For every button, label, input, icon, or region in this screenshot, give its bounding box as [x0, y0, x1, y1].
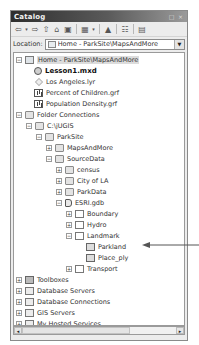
expand-icon[interactable]: + [56, 189, 62, 195]
tree-item-label: Home - ParkSite\MapsAndMore [37, 56, 139, 64]
restore-icon[interactable]: □ [168, 13, 175, 20]
location-combobox[interactable]: Home - ParkSite\MapsAndMore ▼ [45, 39, 185, 50]
expand-icon[interactable]: + [16, 277, 22, 283]
folder-icon [65, 177, 74, 185]
view-grid-icon[interactable]: ▦ [80, 24, 90, 35]
scroll-thumb[interactable] [22, 327, 130, 334]
tree-item-label: Lesson1.mxd [45, 67, 97, 75]
collapse-icon[interactable]: − [46, 156, 52, 162]
feature-dataset-icon [75, 221, 84, 229]
folder-icon [35, 122, 44, 130]
tree-item-label: Parkland [98, 243, 126, 251]
tree-item-feature-dataset[interactable]: − Landmark [66, 230, 120, 241]
tree-item-folder[interactable]: + MapsAndMore [46, 142, 113, 153]
tree-item-grf[interactable]: Percent of Children.grf [34, 87, 119, 98]
toolbar-separator [76, 24, 77, 34]
location-value[interactable]: Home - ParkSite\MapsAndMore [58, 40, 174, 48]
up-one-level-icon[interactable]: ⇧ [41, 24, 51, 35]
catalog-window: Catalog □ × ⇦ ▾ ⇨ ⇧ ⌂ ▣ ▦ ▾ ▲ ☷ ▤ Locati… [10, 10, 188, 341]
expand-icon[interactable]: + [56, 167, 62, 173]
scroll-left-icon[interactable]: ◂ [14, 327, 22, 334]
collapse-icon[interactable]: − [26, 123, 32, 129]
collapse-icon[interactable]: − [36, 134, 42, 140]
tree-item-feature-class[interactable]: Place_ply [86, 252, 128, 263]
chevron-down-icon[interactable]: ▼ [174, 40, 184, 49]
scroll-right-icon[interactable]: ▸ [176, 327, 184, 334]
location-label: Location: [13, 40, 43, 48]
tree-item-label: Percent of Children.grf [46, 89, 119, 97]
tree-item-label: C:\jUGIS [47, 122, 74, 130]
back-dropdown-icon[interactable]: ▾ [24, 24, 29, 35]
expand-icon[interactable]: + [56, 178, 62, 184]
tree-item-lyr[interactable]: Los Angeles.lyr [34, 76, 95, 87]
tree-item-toolboxes[interactable]: + Toolboxes [16, 274, 69, 285]
toolbox-icon [25, 276, 34, 284]
toolbar-separator [116, 24, 117, 34]
feature-dataset-icon [75, 210, 84, 218]
expand-icon[interactable]: + [66, 266, 72, 272]
forward-arrow-icon[interactable]: ⇨ [30, 24, 40, 35]
expand-icon[interactable]: + [66, 211, 72, 217]
gis-server-icon [25, 309, 34, 317]
tree-item-label: Database Servers [37, 287, 95, 295]
tree-item-folder[interactable]: + ParkData [56, 186, 107, 197]
tree-item-label: Toolboxes [37, 276, 69, 284]
tree-item-home[interactable]: − Home - ParkSite\MapsAndMore [16, 54, 139, 65]
tree-item-database-servers[interactable]: + Database Servers [16, 285, 95, 296]
collapse-icon[interactable]: − [66, 233, 72, 239]
close-icon[interactable]: × [177, 13, 184, 20]
graph-icon [34, 89, 43, 97]
tree-item-label: City of LA [77, 177, 108, 185]
view-dropdown-icon[interactable]: ▾ [91, 24, 96, 35]
toolbar-separator [99, 24, 100, 34]
tree-item-folder[interactable]: − ParkSite [36, 131, 84, 142]
connect-folder-icon[interactable]: ▣ [63, 24, 73, 35]
expand-icon[interactable]: + [16, 299, 22, 305]
tree-item-mxd[interactable]: Lesson1.mxd [34, 65, 97, 76]
tree-item-folder[interactable]: − SourceData [46, 153, 105, 164]
tree-item-gis-servers[interactable]: + GIS Servers [16, 307, 75, 318]
collapse-icon[interactable]: − [16, 57, 22, 63]
tree-item-geodatabase[interactable]: − ESRI.gdb [56, 197, 104, 208]
tree-item-feature-dataset[interactable]: + Hydro [66, 219, 106, 230]
home-folder-icon[interactable]: ⌂ [52, 24, 62, 35]
feature-dataset-icon [75, 265, 84, 273]
tree-item-folder[interactable]: − C:\jUGIS [26, 120, 74, 131]
title-bar[interactable]: Catalog □ × [11, 11, 187, 22]
toggle-tree-icon[interactable]: ☷ [120, 24, 130, 35]
expand-icon[interactable]: + [16, 310, 22, 316]
expand-icon[interactable]: + [46, 145, 52, 151]
options-icon[interactable]: ▤ [137, 24, 147, 35]
polygon-feature-class-icon [86, 243, 95, 251]
tree-item-database-connections[interactable]: + Database Connections [16, 296, 110, 307]
toolbar: ⇦ ▾ ⇨ ⇧ ⌂ ▣ ▦ ▾ ▲ ☷ ▤ [11, 22, 187, 37]
horizontal-scrollbar[interactable]: ◂ ▸ [13, 326, 185, 335]
collapse-icon[interactable]: − [56, 200, 62, 206]
back-arrow-icon[interactable]: ⇦ [13, 24, 23, 35]
tree-item-feature-dataset[interactable]: + Transport [66, 263, 118, 274]
layer-file-icon [35, 77, 43, 85]
tree-item-grf[interactable]: Population Density.grf [34, 98, 117, 109]
annotation-arrow-icon [142, 241, 199, 249]
add-data-icon[interactable]: ▲ [103, 24, 113, 35]
folder-icon [55, 155, 64, 163]
tree-item-label: Transport [87, 265, 118, 273]
tree-item-folder-connections[interactable]: − Folder Connections [16, 109, 99, 120]
folder-icon [45, 133, 54, 141]
collapse-icon[interactable]: − [16, 112, 22, 118]
scroll-track[interactable] [22, 327, 176, 334]
tree-item-folder[interactable]: + City of LA [56, 175, 108, 186]
tree-item-label: Population Density.grf [46, 100, 117, 108]
tree-item-label: GIS Servers [37, 309, 75, 317]
tree-item-hosted-services[interactable]: + My Hosted Services [16, 318, 101, 326]
tree-item-feature-dataset[interactable]: + Boundary [66, 208, 118, 219]
expand-icon[interactable]: + [16, 288, 22, 294]
tree-item-feature-class[interactable]: Parkland [86, 241, 126, 252]
database-connection-icon [25, 298, 34, 306]
tree-item-label: ParkData [77, 188, 107, 196]
tree-item-label: SourceData [67, 155, 105, 163]
tree-item-label: MapsAndMore [67, 144, 113, 152]
folder-icon [65, 188, 74, 196]
tree-item-folder[interactable]: + census [56, 164, 100, 175]
expand-icon[interactable]: + [66, 222, 72, 228]
